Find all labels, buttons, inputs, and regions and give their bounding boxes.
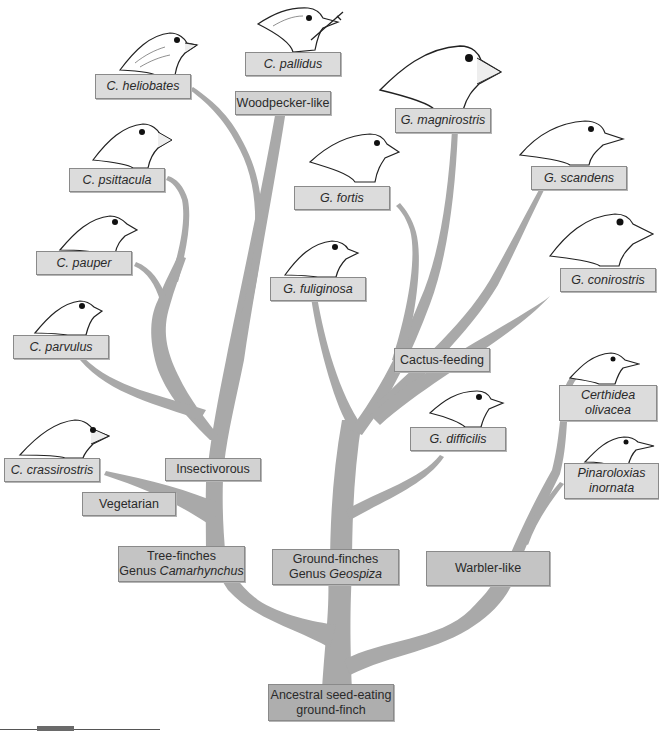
branch-warbler: [344, 580, 512, 675]
root-label-ancestral-finch: Ancestral seed-eating ground-finch: [268, 684, 394, 721]
group-label-ground-finches: Ground-finches Genus Geospiza: [272, 549, 399, 585]
species-label-heliobates: C. heliobates: [95, 74, 191, 99]
branch-geospiza: [330, 420, 362, 570]
bird-head-difficilis-icon: [425, 385, 505, 430]
bird-head-fortis-icon: [305, 130, 400, 185]
bird-head-pallidus-icon: [253, 4, 345, 54]
species-label-pauper: C. pauper: [36, 251, 132, 275]
bird-head-certhidea-icon: [565, 348, 640, 386]
species-label-pallidus: C. pallidus: [245, 52, 341, 76]
branch-fuliginosa: [310, 290, 358, 420]
branch-difficilis: [346, 455, 444, 520]
trait-label-cactus: Cactus-feeding: [394, 348, 490, 372]
branch-pauper: [134, 262, 166, 300]
bird-head-scandens-icon: [515, 115, 625, 167]
trait-label-woodpecker: Woodpecker-like: [235, 91, 331, 115]
bird-head-pauper-icon: [55, 210, 140, 255]
species-label-fuliginosa: G. fuliginosa: [270, 277, 366, 301]
species-label-parvulus: C. parvulus: [13, 335, 109, 359]
species-label-certhidea: Certhideaolivacea: [559, 385, 657, 421]
species-label-difficilis: G. difficilis: [410, 427, 506, 451]
trait-label-vegetarian: Vegetarian: [82, 492, 176, 516]
bird-head-fuliginosa-icon: [280, 235, 360, 280]
bird-head-conirostris-icon: [545, 208, 655, 268]
branch-heliobates: [190, 87, 262, 322]
page-baseline-rule: [0, 729, 160, 730]
tree-finches-genus-line: Genus Camarhynchus: [119, 564, 243, 579]
species-label-scandens: G. scandens: [531, 166, 627, 190]
bird-head-crassirostris-icon: [15, 410, 110, 460]
bird-head-pinaroloxias-icon: [580, 432, 655, 467]
bird-head-psittacula-icon: [88, 118, 173, 170]
branch-psittacula: [166, 176, 189, 282]
trait-label-insectivorous: Insectivorous: [165, 458, 261, 481]
species-label-crassirostris: C. crassirostris: [4, 458, 100, 482]
ground-finches-genus-line: Genus Geospiza: [289, 567, 382, 582]
species-label-pinaroloxias: Pinaroloxiasinornata: [564, 463, 659, 499]
species-label-magnirostris: G. magnirostris: [395, 108, 491, 133]
group-label-warbler-like: Warbler-like: [426, 551, 550, 586]
page-baseline-marker: [37, 726, 74, 731]
group-label-tree-finches: Tree-finches Genus Camarhynchus: [118, 546, 245, 582]
bird-head-parvulus-icon: [30, 295, 105, 337]
species-label-conirostris: G. conirostris: [560, 268, 656, 292]
bird-head-heliobates-icon: [115, 25, 200, 80]
species-label-psittacula: C. psittacula: [69, 168, 165, 192]
species-label-fortis: G. fortis: [294, 186, 390, 210]
bird-head-magnirostris-icon: [375, 40, 505, 112]
